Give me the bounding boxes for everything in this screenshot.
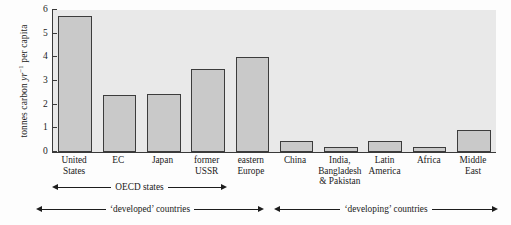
x-axis-category-label: LatinAmerica (363, 155, 407, 189)
bar-slot (319, 10, 363, 152)
bar-slot (53, 10, 97, 152)
developing-bracket: ‘developing’ countries (274, 202, 498, 216)
bar-slot (142, 10, 186, 152)
x-axis-category-label: easternEurope (229, 155, 273, 189)
oecd-annotation-row: OECD states (52, 180, 227, 194)
y-axis-tick-label: 1 (43, 121, 48, 134)
developed-bracket: ‘developed’ countries (36, 202, 264, 216)
x-axis-category-label: India,Bangladesh& Pakistan (317, 155, 362, 189)
bar-slot (407, 10, 451, 152)
bar-slot (230, 10, 274, 152)
bar-series (53, 10, 496, 152)
bar-slot (186, 10, 230, 152)
bar (368, 141, 402, 152)
bar-slot (274, 10, 318, 152)
bar (191, 69, 225, 152)
bar-slot (97, 10, 141, 152)
y-axis-tick-label: 4 (43, 50, 48, 63)
y-axis-tick-label: 0 (43, 145, 48, 158)
x-axis-category-label: Africa (407, 155, 451, 189)
bar (58, 16, 92, 152)
plot-area: 0123456 (52, 10, 496, 153)
bracket-line (58, 187, 111, 188)
group-annotation-row: ‘developed’ countries ‘developing’ count… (36, 202, 498, 216)
oecd-label: OECD states (111, 182, 167, 192)
bar (280, 141, 314, 152)
arrow-right-icon (221, 184, 227, 190)
y-axis-tick-label: 5 (43, 27, 48, 40)
bracket-line (432, 209, 492, 210)
bar (324, 147, 358, 152)
developing-label: ‘developing’ countries (340, 204, 431, 214)
y-axis-tick-label: 6 (43, 3, 48, 16)
bracket-line (168, 187, 221, 188)
bracket-line (42, 209, 106, 210)
arrow-right-icon (258, 206, 264, 212)
bracket-line (280, 209, 340, 210)
bar-slot (452, 10, 496, 152)
bar (457, 130, 491, 152)
bar (413, 147, 447, 152)
y-axis-title: tonnes carbon yr−1 per capita (17, 24, 29, 137)
bar-slot (363, 10, 407, 152)
bar (103, 95, 137, 152)
bar (236, 57, 270, 152)
x-axis-category-label: China (273, 155, 317, 189)
bracket-line (194, 209, 258, 210)
y-axis-title-container: tonnes carbon yr−1 per capita (14, 6, 32, 156)
x-axis-category-label: MiddleEast (451, 155, 495, 189)
bar-chart-figure: tonnes carbon yr−1 per capita 0123456 Un… (0, 0, 511, 225)
y-axis-tick-label: 2 (43, 98, 48, 111)
y-axis-tick-label: 3 (43, 74, 48, 87)
bar (147, 94, 181, 152)
oecd-bracket: OECD states (52, 180, 227, 194)
developed-label: ‘developed’ countries (106, 204, 194, 214)
arrow-right-icon (492, 206, 498, 212)
